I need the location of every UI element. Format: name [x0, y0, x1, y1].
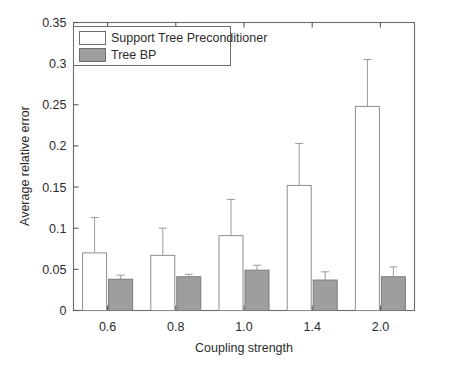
bar-tree-bp	[245, 270, 269, 310]
chart-figure: 00.050.10.150.20.250.30.35 0.60.81.01.42…	[0, 0, 464, 372]
y-tick-label: 0.05	[42, 263, 66, 277]
y-tick-label: 0.3	[49, 57, 66, 71]
y-axis-label: Average relative error	[18, 106, 32, 226]
bars-layer	[83, 60, 406, 311]
y-tick-label: 0.15	[42, 181, 66, 195]
bar-support-tree-preconditioner	[219, 236, 243, 311]
bar-support-tree-preconditioner	[287, 185, 311, 310]
y-tick-label: 0.2	[49, 139, 66, 153]
y-tick-label: 0.1	[49, 222, 66, 236]
bar-tree-bp	[177, 277, 201, 311]
legend-label-tree-bp: Tree BP	[111, 48, 156, 62]
x-tick-label: 2.0	[372, 320, 389, 334]
legend-swatch-tree-bp	[80, 49, 106, 62]
bar-tree-bp	[381, 277, 405, 311]
bar-tree-bp	[313, 280, 337, 310]
bar-support-tree-preconditioner	[83, 253, 107, 311]
x-tick-label: 0.6	[99, 320, 116, 334]
y-tick-label: 0.25	[42, 98, 66, 112]
bar-tree-bp	[109, 279, 133, 310]
x-axis-ticks: 0.60.81.01.42.0	[99, 23, 389, 334]
legend-swatch-support-tree-preconditioner	[80, 32, 106, 45]
legend-label-support-tree-preconditioner: Support Tree Preconditioner	[111, 31, 267, 45]
x-tick-label: 1.0	[235, 320, 252, 334]
x-tick-label: 1.4	[304, 320, 321, 334]
x-tick-label: 0.8	[167, 320, 184, 334]
bar-chart-svg: 00.050.10.150.20.250.30.35 0.60.81.01.42…	[0, 0, 464, 372]
chart-legend: Support Tree Preconditioner Tree BP	[74, 27, 268, 66]
bar-support-tree-preconditioner	[151, 255, 175, 310]
y-tick-label: 0.35	[42, 16, 66, 30]
y-tick-label: 0	[60, 304, 67, 318]
bar-support-tree-preconditioner	[355, 106, 379, 310]
x-axis-label: Coupling strength	[195, 341, 293, 355]
